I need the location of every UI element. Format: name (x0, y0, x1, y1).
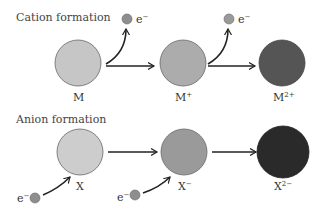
arrow-electron-release-1 (106, 29, 126, 64)
label-x: X (76, 181, 84, 192)
cation-m-plus-circle (160, 40, 206, 86)
arrow-electron-capture-2 (143, 177, 170, 193)
label-x-2minus: X2− (274, 181, 292, 192)
electron-icon (122, 14, 132, 24)
ion-formation-diagram: Cation formation e− e− M M+ M2+ Anion fo… (0, 0, 325, 218)
electron-label: e− (17, 193, 29, 204)
electron-icon (30, 193, 40, 203)
atom-x-circle (57, 129, 103, 175)
electron-label: e− (136, 14, 148, 25)
label-m-plus: M+ (175, 92, 192, 103)
anion-x-2minus-circle (257, 126, 309, 178)
electron-label: e− (117, 192, 129, 203)
atom-m-circle (55, 40, 101, 86)
anion-x-minus-circle (161, 129, 207, 175)
cation-formation-title: Cation formation (16, 12, 111, 23)
label-x-minus: X− (178, 181, 192, 192)
electron-icon (130, 190, 140, 200)
label-m-2plus: M2+ (273, 92, 295, 103)
electron-icon (224, 14, 234, 24)
arrow-electron-release-2 (208, 29, 228, 64)
arrow-electron-capture-1 (43, 177, 70, 195)
electron-label: e− (238, 14, 250, 25)
label-m: M (73, 92, 84, 103)
cation-m-2plus-circle (259, 40, 305, 86)
anion-formation-title: Anion formation (16, 114, 106, 125)
